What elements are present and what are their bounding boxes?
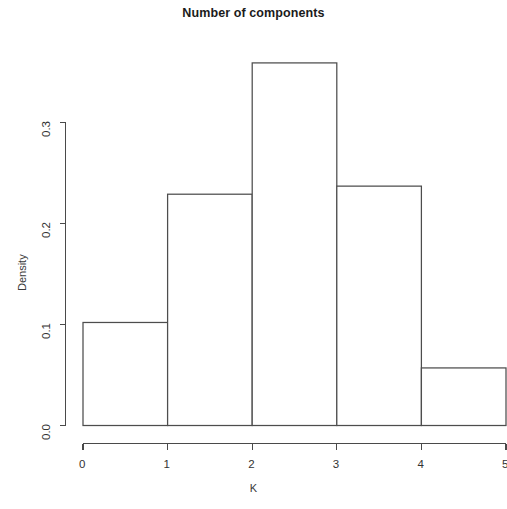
x-tick-label: 0 (79, 458, 85, 470)
histogram-bar (421, 368, 506, 426)
x-tick-label: 2 (248, 458, 254, 470)
y-tick-label: 0.1 (40, 323, 52, 339)
x-tick-label: 3 (333, 458, 339, 470)
histogram-bar (252, 63, 337, 426)
y-tick-label: 0.3 (40, 121, 52, 137)
plot-canvas (0, 0, 507, 509)
y-tick-label: 0.2 (40, 222, 52, 238)
x-tick-label: 4 (417, 458, 423, 470)
histogram-bar (83, 322, 168, 425)
x-tick-label: 1 (164, 458, 170, 470)
histogram-bar (168, 194, 253, 425)
bars-group (83, 63, 506, 426)
y-tick-label: 0.0 (40, 424, 52, 440)
histogram-bar (337, 186, 422, 425)
x-tick-label: 5 (502, 458, 507, 470)
y-axis-title: Density (16, 254, 28, 291)
histogram-figure: Number of components 0.00.10.20.3 012345… (0, 0, 507, 509)
x-axis-title: K (0, 482, 507, 494)
